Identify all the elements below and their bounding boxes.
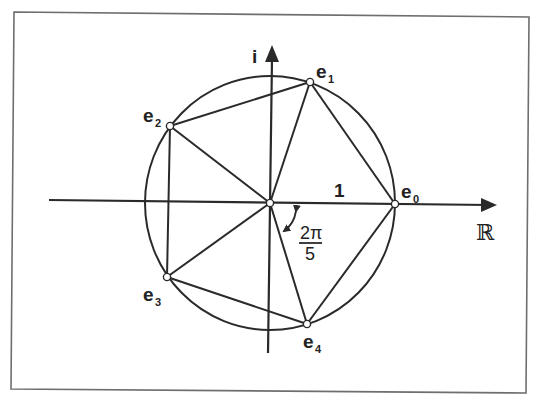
svg-text:e: e — [316, 61, 327, 82]
roots-of-unity-diagram: i ℝ 1 e 0 e 1 e 2 e 3 e 4 2π 5 — [0, 0, 537, 407]
vertex-e3 — [163, 273, 170, 280]
svg-text:0: 0 — [413, 193, 419, 205]
svg-text:e: e — [401, 181, 412, 202]
svg-text:e: e — [143, 105, 154, 126]
vertex-e2 — [166, 122, 173, 129]
svg-text:e: e — [143, 284, 154, 305]
svg-text:5: 5 — [305, 244, 315, 264]
vertex-e1 — [306, 78, 313, 85]
angle-arc-icon — [284, 211, 296, 231]
vertex-label-e3: e 3 — [143, 284, 161, 308]
svg-text:2: 2 — [155, 117, 161, 129]
vertex-label-e4: e 4 — [303, 331, 322, 355]
vertex-label-e2: e 2 — [143, 105, 161, 129]
real-axis-arrow-icon — [481, 198, 497, 212]
vertex-label-e1: e 1 — [316, 61, 334, 85]
origin-point — [266, 199, 273, 206]
real-axis-label: ℝ — [476, 220, 495, 245]
imaginary-axis-label: i — [252, 46, 257, 67]
svg-text:e: e — [303, 331, 314, 352]
svg-text:2π: 2π — [300, 223, 322, 243]
vertex-e4 — [303, 320, 310, 327]
unit-length-label: 1 — [334, 180, 345, 201]
imaginary-axis-arrow-icon — [265, 45, 279, 62]
vertex-label-e0: e 0 — [401, 181, 419, 205]
svg-text:4: 4 — [315, 343, 322, 355]
vertex-e0 — [391, 200, 398, 207]
svg-text:1: 1 — [328, 73, 334, 85]
angle-label: 2π 5 — [299, 223, 322, 264]
svg-text:3: 3 — [155, 296, 161, 308]
